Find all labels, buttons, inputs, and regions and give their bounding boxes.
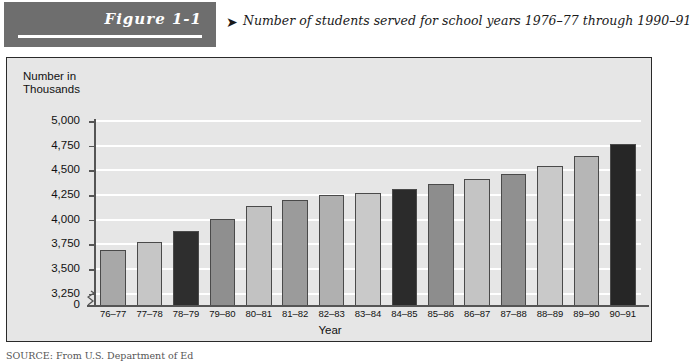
x-axis-tick-label: 85–86 (423, 308, 459, 319)
x-axis-line (87, 305, 649, 307)
x-axis-tick-label: 80–81 (241, 308, 277, 319)
bar-84-85[interactable] (392, 189, 417, 306)
y-axis-tick (89, 121, 95, 123)
y-axis-tick (89, 220, 95, 222)
x-axis-title: Year (7, 324, 653, 336)
y-axis-title-line2: Thousands (23, 83, 80, 95)
y-axis-tick-label: 4,000 (51, 213, 80, 225)
y-axis-tick-label: 4,250 (51, 188, 80, 200)
x-axis-tick-label: 90–91 (605, 308, 641, 319)
y-axis-tick (89, 244, 95, 246)
y-axis-tick-label: 3,500 (51, 262, 80, 274)
y-axis-tick-label: 3,750 (51, 237, 80, 249)
x-axis-tick-label: 79–80 (204, 308, 240, 319)
figure-number-label: Figure 1-1 (104, 10, 202, 28)
bar-78-79[interactable] (173, 231, 198, 306)
bar-88-89[interactable] (537, 166, 562, 306)
x-axis-tick-label: 89–90 (568, 308, 604, 319)
y-axis-title: Number in Thousands (23, 70, 80, 96)
bar-76-77[interactable] (100, 250, 125, 306)
bar-80-81[interactable] (246, 206, 271, 306)
y-axis-tick-label: 4,500 (51, 163, 80, 175)
y-axis-tick-zero (89, 305, 95, 307)
bar-77-78[interactable] (137, 242, 162, 306)
x-axis-tick-label: 84–85 (386, 308, 422, 319)
x-axis-tick-label: 88–89 (532, 308, 568, 319)
bar-81-82[interactable] (282, 200, 307, 306)
x-axis-tick-label: 82–83 (313, 308, 349, 319)
y-axis-tick-label: 3,250 (51, 287, 80, 299)
chart-panel: Number in Thousands Year 3,2503,5003,750… (6, 57, 652, 342)
bar-82-83[interactable] (319, 195, 344, 306)
y-axis-tick (89, 269, 95, 271)
x-axis-tick-label: 76–77 (95, 308, 131, 319)
x-axis-tick-label: 77–78 (131, 308, 167, 319)
bar-87-88[interactable] (501, 174, 526, 306)
x-axis-tick-label: 83–84 (350, 308, 386, 319)
y-axis-tick-label: 4,750 (51, 139, 80, 151)
x-axis-tick-label: 81–82 (277, 308, 313, 319)
figure-header: Figure 1-1 ➤ Number of students served f… (0, 0, 660, 50)
bar-90-91[interactable] (610, 144, 635, 306)
figure-caption: Number of students served for school yea… (243, 13, 691, 28)
bar-89-90[interactable] (574, 156, 599, 306)
y-axis-tick-label-zero: 0 (74, 298, 80, 310)
x-axis-tick-label: 78–79 (168, 308, 204, 319)
y-axis-tick (89, 195, 95, 197)
bar-86-87[interactable] (464, 179, 489, 306)
y-axis-tick (89, 170, 95, 172)
x-axis-tick-label: 87–88 (495, 308, 531, 319)
y-axis-title-line1: Number in (23, 70, 76, 82)
axis-break-icon (87, 290, 104, 306)
y-axis-tick (89, 146, 95, 148)
y-axis-tick-label: 5,000 (51, 114, 80, 126)
bar-85-86[interactable] (428, 184, 453, 306)
bar-79-80[interactable] (210, 219, 235, 306)
bar-83-84[interactable] (355, 193, 380, 306)
caption-arrow-icon: ➤ (226, 15, 238, 29)
plot-bars (95, 121, 641, 306)
figure-divider-rule (18, 35, 202, 38)
x-axis-tick-label: 86–87 (459, 308, 495, 319)
y-axis-tick (89, 294, 95, 296)
source-note: SOURCE: From U.S. Department of Ed (6, 350, 193, 361)
figure-number-box: Figure 1-1 (4, 2, 216, 47)
